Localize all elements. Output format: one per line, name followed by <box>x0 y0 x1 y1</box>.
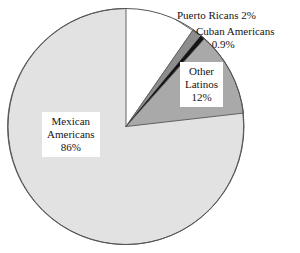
slice-label-other-latinos-line3: 12% <box>185 91 218 104</box>
slice-label-mexican-americans-line2: Americans <box>47 128 95 141</box>
slice-label-cuban-americans-line2: 0.9% <box>196 38 251 51</box>
slice-label-cuban-americans: Cuban Americans 0.9% <box>196 25 275 50</box>
slice-label-mexican-americans-line3: 86% <box>47 141 95 154</box>
slice-label-mexican-americans-line1: Mexican <box>47 115 95 128</box>
pie-chart: Puerto Ricans 2% Cuban Americans 0.9% Ot… <box>0 0 300 253</box>
slice-label-other-latinos-line2: Latinos <box>185 78 218 91</box>
slice-label-other-latinos: Other Latinos 12% <box>180 62 223 107</box>
slice-label-puerto-ricans-text: Puerto Ricans 2% <box>177 9 256 22</box>
slice-label-other-latinos-line1: Other <box>185 65 218 78</box>
slice-label-puerto-ricans: Puerto Ricans 2% <box>177 9 256 22</box>
slice-label-mexican-americans: Mexican Americans 86% <box>42 112 100 157</box>
slice-label-cuban-americans-line1: Cuban Americans <box>196 25 275 38</box>
